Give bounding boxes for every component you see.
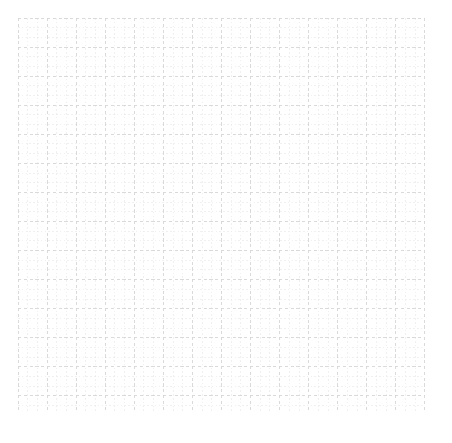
grid-svg [18,18,425,412]
major-gridlines-vertical [47,18,425,412]
plot-area [18,18,425,412]
chart-canvas [0,0,452,443]
